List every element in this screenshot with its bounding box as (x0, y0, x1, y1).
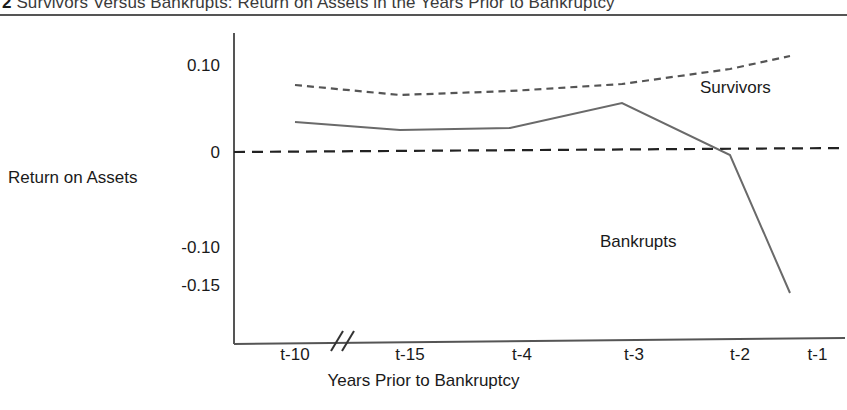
figure-caption: 2 Survivors Versus Bankrupts: Return on … (2, 0, 615, 13)
series-line-bankrupts (295, 103, 790, 293)
chart-plot-area: Return on Assets 0.10 0 -0.10 -0.15 t-10… (0, 16, 847, 410)
x-axis-break-icon (331, 331, 354, 351)
figure-caption-strip: 2 Survivors Versus Bankrupts: Return on … (0, 0, 847, 15)
figure-caption-number: 2 (2, 0, 12, 12)
zero-reference-line (234, 148, 845, 152)
figure-caption-label: Survivors Versus Bankrupts: Return on As… (16, 0, 614, 12)
x-axis-line (234, 338, 845, 344)
chart-graphics (0, 16, 847, 410)
series-line-survivors (295, 56, 790, 95)
figure-page: 2 Survivors Versus Bankrupts: Return on … (0, 0, 847, 410)
